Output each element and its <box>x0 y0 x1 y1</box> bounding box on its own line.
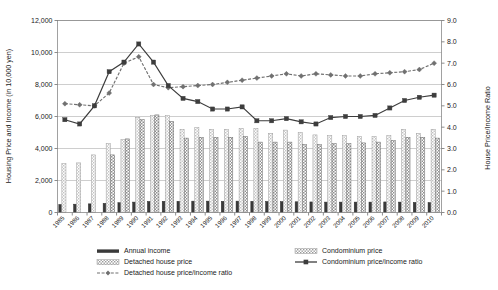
bar <box>221 201 224 212</box>
y-axis-left-tick-label: 4,000 <box>35 145 53 152</box>
bar <box>106 144 110 213</box>
bar <box>180 129 184 212</box>
bar <box>369 202 372 212</box>
data-point-marker <box>122 60 126 64</box>
bar <box>384 202 387 213</box>
data-point-marker <box>255 119 259 123</box>
bar <box>239 129 243 213</box>
x-axis-tick-label: 2006 <box>361 214 376 229</box>
x-axis-tick-label: 1988 <box>95 214 110 229</box>
data-point-marker <box>432 61 437 66</box>
bar <box>195 128 199 213</box>
bar <box>88 204 91 213</box>
bar <box>133 202 136 212</box>
bar <box>413 202 416 212</box>
bar <box>399 202 402 212</box>
data-point-marker <box>78 122 82 126</box>
bar <box>91 155 95 213</box>
housing-price-income-chart: 02,0004,0006,0008,00010,00012,000 0.01.0… <box>0 0 498 290</box>
y-axis-right-title: House Price/Income Ratio <box>483 86 492 170</box>
data-point-marker <box>329 115 333 119</box>
bar <box>177 201 180 212</box>
data-point-marker <box>402 69 407 74</box>
y-axis-left-tick-label: 2,000 <box>35 177 53 184</box>
bar <box>328 136 332 213</box>
x-axis-tick-label: 2005 <box>346 214 361 229</box>
data-point-marker <box>314 122 318 126</box>
bar <box>347 144 351 213</box>
bar <box>310 202 313 213</box>
data-point-marker <box>343 114 347 118</box>
bar <box>435 138 439 212</box>
x-axis-tick-label: 2002 <box>302 214 317 229</box>
x-axis-tick-label: 1991 <box>140 214 155 229</box>
data-point-marker <box>373 71 378 76</box>
data-point-marker <box>151 82 156 87</box>
chart-container: 02,0004,0006,0008,00010,00012,000 0.01.0… <box>0 0 498 290</box>
data-point-marker <box>269 73 274 78</box>
y-axis-right-ticks: 0.01.02.03.04.05.06.07.08.09.0 <box>442 17 457 216</box>
legend-label: Condominium price <box>322 247 382 255</box>
x-axis-tick-label: 1996 <box>213 214 228 229</box>
bar <box>236 201 239 212</box>
x-axis-tick-label: 1997 <box>228 214 243 229</box>
bar <box>165 116 169 213</box>
data-point-marker <box>151 60 155 64</box>
y-axis-right-tick-label: 3.0 <box>447 145 457 152</box>
data-point-marker <box>254 76 259 81</box>
bar <box>136 117 140 212</box>
data-point-marker <box>62 101 67 106</box>
legend-swatch-bar <box>295 249 317 254</box>
legend-swatch-marker <box>106 271 111 276</box>
data-point-marker <box>136 54 141 59</box>
bar <box>77 163 81 213</box>
data-point-marker <box>343 73 348 78</box>
bar <box>298 133 302 213</box>
data-point-marker <box>166 83 170 87</box>
y-axis-left-tick-label: 6,000 <box>35 113 53 120</box>
x-axis-tick-label: 1987 <box>80 214 95 229</box>
bar <box>243 137 247 213</box>
line-series-layer <box>62 42 436 126</box>
legend-swatch-marker <box>304 260 309 265</box>
legend-item: Condominium price/income ratio <box>295 258 422 266</box>
y-axis-right-tick-label: 6.0 <box>447 81 457 88</box>
bar <box>303 145 307 213</box>
data-point-marker <box>388 106 392 110</box>
data-point-marker <box>284 117 288 121</box>
bar <box>125 139 129 213</box>
bar <box>295 202 298 213</box>
data-point-marker <box>387 70 392 75</box>
bar <box>332 144 336 213</box>
bar <box>342 136 346 213</box>
data-point-marker <box>196 99 200 103</box>
bar <box>147 201 150 212</box>
x-axis-tick-label: 1986 <box>66 214 81 229</box>
data-point-marker <box>417 67 422 72</box>
legend-label: Annual income <box>124 247 170 254</box>
bar <box>339 202 342 212</box>
bar <box>317 145 321 213</box>
x-axis-tick-label: 2007 <box>376 214 391 229</box>
bar <box>192 201 195 212</box>
bar <box>288 142 292 212</box>
y-axis-right-tick-label: 1.0 <box>447 188 457 195</box>
bar <box>313 135 317 213</box>
bar <box>229 137 233 212</box>
data-point-marker <box>63 118 67 122</box>
bar <box>59 205 62 213</box>
bar <box>224 129 228 212</box>
data-point-marker <box>240 105 244 109</box>
bar-series-layer <box>59 115 440 213</box>
chart-legend: Annual incomeCondominium priceDetached h… <box>97 247 422 277</box>
y-axis-left-ticks: 02,0004,0006,0008,00010,00012,000 <box>31 17 57 216</box>
bar <box>118 203 121 213</box>
bar <box>150 116 154 213</box>
legend-item: Condominium price <box>295 247 382 255</box>
bar <box>111 155 115 213</box>
x-axis-tick-label: 2008 <box>391 214 406 229</box>
bar <box>325 202 328 212</box>
legend-item: Annual income <box>97 247 170 254</box>
bar <box>254 129 258 213</box>
bar <box>121 140 125 213</box>
